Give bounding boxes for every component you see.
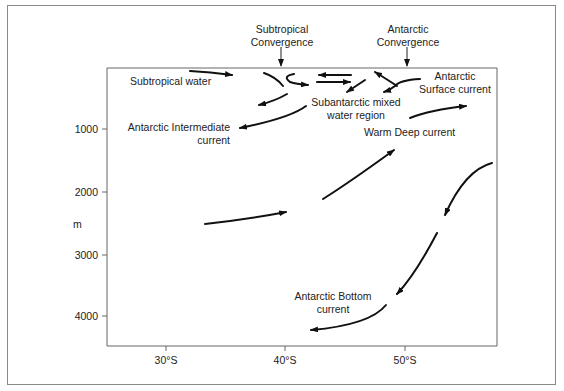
y-tick-2000: 2000 <box>60 186 98 199</box>
x-tick-40s: 40°S <box>260 354 310 367</box>
antarctic-surface-line2: Surface current <box>414 83 496 96</box>
antarctic-surface-line1: Antarctic <box>414 70 496 83</box>
x-tick-30s: 30°S <box>141 354 191 367</box>
antarctic-convergence-line1: Antarctic <box>368 23 448 36</box>
antarctic-bottom-label: Antarctic Bottom current <box>288 290 378 316</box>
y-tick-3000: 3000 <box>60 249 98 262</box>
antarctic-intermediate-line1: Antarctic Intermediate <box>110 121 230 134</box>
antarctic-intermediate-label: Antarctic Intermediate current <box>110 121 230 147</box>
subantarctic-line1: Subantarctic mixed <box>306 96 406 109</box>
antarctic-convergence-line2: Convergence <box>368 36 448 49</box>
subtropical-convergence-sink-arrow <box>264 73 283 86</box>
warm-deep-label: Warm Deep current <box>364 126 455 139</box>
subtropical-water-label: Subtropical water <box>130 75 211 88</box>
subantarctic-mixed-label: Subantarctic mixed water region <box>306 96 406 122</box>
sink-to-intermediate-arrow <box>259 94 287 105</box>
antarctic-surface-label: Antarctic Surface current <box>414 70 496 96</box>
antarctic-bottom-line2: current <box>288 303 378 316</box>
antarctic-intermediate-line2: current <box>110 134 230 147</box>
deep-rising-upper-arrow <box>323 150 394 199</box>
y-axis-unit-label: m <box>73 218 82 231</box>
subtropical-convergence-line2: Convergence <box>242 36 322 49</box>
y-tick-1000: 1000 <box>60 123 98 136</box>
bottom-sink-upper-arrow <box>445 163 492 215</box>
antarctic-intermediate-arrow <box>240 106 306 128</box>
curl-arrow <box>287 74 308 85</box>
y-axis-ticks <box>102 129 107 316</box>
subtropical-convergence-label: Subtropical Convergence <box>242 23 322 49</box>
antarctic-surface-branch-arrow <box>375 72 397 86</box>
antarctic-convergence-label: Antarctic Convergence <box>368 23 448 49</box>
deep-rising-lower-arrow <box>205 212 286 224</box>
x-axis-ticks <box>166 346 405 351</box>
bottom-sink-middle-arrow <box>397 233 437 294</box>
x-tick-50s: 50°S <box>380 354 430 367</box>
subantarctic-line2: water region <box>306 109 406 122</box>
antarctic-bottom-line1: Antarctic Bottom <box>288 290 378 303</box>
convergence-pointers <box>281 47 407 66</box>
subtropical-convergence-line1: Subtropical <box>242 23 322 36</box>
y-tick-4000: 4000 <box>60 310 98 323</box>
warm-deep-upper-arrow <box>410 106 466 118</box>
